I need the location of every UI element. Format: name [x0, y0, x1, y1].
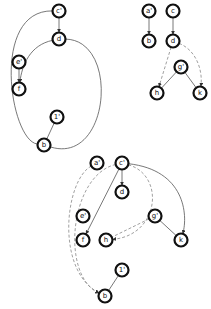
node-label: b — [42, 141, 47, 149]
node-k: k — [194, 87, 207, 100]
edge-c1-to-f — [86, 169, 119, 234]
edge-c1-to-b — [75, 164, 116, 293]
node-label: c' — [119, 159, 125, 167]
node-label: d — [120, 188, 124, 196]
node-label: e' — [16, 58, 22, 66]
node-label: c' — [56, 7, 62, 15]
graph-3-nodes: a'c'de'g'fhk1'b — [77, 157, 188, 303]
node-label: 1' — [54, 113, 60, 121]
node-one1: 1' — [51, 111, 64, 124]
diagram-canvas: c'de'f1'ba'cbdg'hka'c'de'g'fhk1'b — [0, 0, 211, 309]
node-label: h — [155, 89, 159, 97]
edge-c1-to-h — [113, 165, 153, 240]
edge-d-to-b — [51, 39, 102, 149]
node-c1: c' — [116, 157, 129, 170]
edge-d-to-h — [159, 47, 171, 86]
node-g1: g' — [175, 61, 188, 74]
node-label: g' — [152, 212, 158, 220]
nodes-layer: c'de'f1'ba'cbdg'hka'c'de'g'fhk1'b — [13, 5, 207, 303]
node-d: d — [167, 35, 180, 48]
edge-one1-to-b — [47, 123, 54, 139]
node-k: k — [175, 234, 188, 247]
node-d: d — [53, 33, 66, 46]
node-label: 1' — [119, 266, 125, 274]
edge-g1-to-k — [185, 72, 196, 87]
node-g1: g' — [149, 210, 162, 223]
node-label: c — [171, 7, 175, 15]
node-label: d — [171, 37, 175, 45]
node-b: b — [99, 290, 112, 303]
node-e1: e' — [13, 56, 26, 69]
node-label: g' — [178, 63, 184, 71]
node-h: h — [151, 87, 164, 100]
node-label: b — [103, 292, 108, 300]
edge-g1-to-h — [162, 72, 177, 88]
node-c: c — [167, 5, 180, 18]
node-d: d — [116, 186, 129, 199]
node-b: b — [38, 139, 51, 152]
edge-one1-to-b — [109, 275, 119, 290]
graph-2 — [149, 18, 201, 88]
edge-a1-to-b — [69, 166, 99, 293]
node-label: e' — [80, 212, 86, 220]
node-label: h — [104, 236, 108, 244]
edge-g1-to-h — [112, 219, 149, 237]
node-label: b — [147, 37, 152, 45]
node-a1: a' — [91, 157, 104, 170]
node-f: f — [77, 234, 90, 247]
node-label: a' — [146, 7, 152, 15]
graph-2-nodes: a'cbdg'hk — [143, 5, 207, 100]
edge-g1-to-k — [160, 220, 176, 235]
graph-1 — [11, 11, 101, 149]
node-one1: 1' — [116, 264, 129, 277]
edge-c1-to-b — [11, 11, 52, 144]
node-label: d — [57, 35, 61, 43]
node-b: b — [143, 35, 156, 48]
node-f: f — [13, 83, 26, 96]
node-label: a' — [94, 159, 100, 167]
node-a1: a' — [143, 5, 156, 18]
node-h: h — [100, 234, 113, 247]
edges-layer — [11, 11, 201, 293]
node-e1: e' — [77, 210, 90, 223]
node-c1: c' — [53, 5, 66, 18]
